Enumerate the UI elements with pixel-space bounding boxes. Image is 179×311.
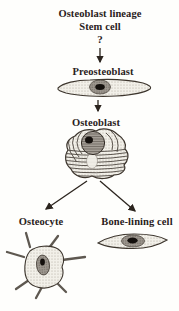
osteoblast-lineage-diagram: Osteoblast lineage Stem cell ? Preosteob…	[0, 0, 179, 311]
edge-osteoblast-to-osteocyte-arrow	[46, 181, 87, 209]
osteoblast-golgi-region	[87, 154, 98, 169]
osteoblast-cell-drawing	[66, 125, 128, 179]
preosteoblast-label: Preosteoblast	[72, 66, 133, 78]
bone-lining-cell-label: Bone-lining cell	[101, 216, 172, 228]
osteoblast-label: Osteoblast	[72, 117, 120, 129]
edge-osteoblast-to-bone-lining-arrow	[100, 181, 135, 211]
osteocyte-label: Osteocyte	[19, 216, 64, 228]
bone-lining-nucleolus	[127, 238, 137, 244]
osteoblast-nucleolus	[85, 136, 93, 143]
osteocyte-nucleolus	[40, 259, 45, 266]
preosteoblast-nucleolus	[95, 84, 105, 90]
header-line2: Stem cell	[79, 21, 120, 33]
header-line1: Osteoblast lineage	[58, 8, 141, 20]
osteocyte-cell-drawing	[7, 233, 85, 298]
preosteoblast-cell-drawing	[58, 79, 151, 96]
diagram-artwork	[0, 0, 179, 311]
uncertainty-question-mark: ?	[97, 33, 103, 45]
bone-lining-cell-drawing	[98, 234, 167, 249]
